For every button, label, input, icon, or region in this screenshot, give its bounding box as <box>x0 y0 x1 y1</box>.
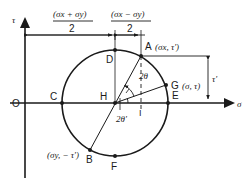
origin-label: O <box>12 98 20 109</box>
dim-left-denominator: 2 <box>69 23 75 34</box>
label-e: E <box>172 90 179 101</box>
label-d: D <box>106 54 113 65</box>
sigma-axis <box>10 98 235 108</box>
tau-axis-label: τ <box>12 15 16 25</box>
point-h <box>113 101 117 105</box>
label-b: B <box>86 154 93 165</box>
sigma-axis-arrow-icon <box>224 98 235 108</box>
label-a: A <box>145 41 152 52</box>
label-a-coords: (σx, τ') <box>155 42 179 52</box>
label-f: F <box>111 161 117 172</box>
label-c: C <box>50 91 57 102</box>
dim-left-numerator: (σx + σy) <box>53 9 86 19</box>
point-g <box>164 83 168 87</box>
label-2theta: 2θ <box>139 71 149 81</box>
angle-arc-2theta <box>125 85 135 96</box>
sigma-axis-label: σ <box>237 99 242 109</box>
label-h: H <box>100 91 107 102</box>
dim-right-numerator: (σx − σy) <box>111 9 144 19</box>
tau-axis-arrow-icon <box>20 17 30 28</box>
label-i: I <box>139 108 142 118</box>
point-a <box>139 54 143 58</box>
point-c <box>60 101 64 105</box>
label-g-coords: (σ, τ) <box>182 81 200 91</box>
point-d <box>113 48 117 52</box>
point-b <box>88 148 92 152</box>
point-e <box>166 101 170 105</box>
dim-right-denominator: 2 <box>127 23 133 34</box>
point-f <box>113 154 117 158</box>
radius-hg <box>115 85 166 103</box>
tau-axis <box>20 17 30 178</box>
label-b-coords: (σy, − τ') <box>47 150 79 160</box>
label-tau-prime: τ' <box>212 74 218 84</box>
mohr-circle-diagram: τ σ O (σx + σy) 2 (σx − σy) 2 D A (σx, τ… <box>0 0 247 187</box>
label-2theta-prime: 2θ' <box>116 114 128 124</box>
